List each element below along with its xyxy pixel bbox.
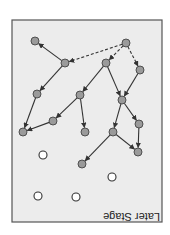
- node-K: [118, 96, 126, 104]
- node-N: [134, 148, 142, 156]
- graph-diagram: Later Stage: [0, 0, 170, 235]
- node-M: [109, 128, 117, 136]
- node-B: [61, 59, 69, 67]
- empty-node-S: [72, 193, 80, 201]
- empty-node-P: [39, 151, 47, 159]
- node-F: [33, 90, 41, 98]
- empty-node-R: [34, 192, 42, 200]
- node-G: [76, 91, 84, 99]
- node-I: [19, 128, 27, 136]
- empty-node-Q: [108, 173, 116, 181]
- node-J: [81, 128, 89, 136]
- diagram-canvas: Later Stage: [0, 0, 170, 235]
- stage-label: Later Stage: [103, 211, 160, 223]
- node-H: [49, 117, 57, 125]
- node-E: [136, 66, 144, 74]
- node-C: [122, 39, 130, 47]
- edge-L-N: [138, 128, 139, 148]
- node-A: [31, 37, 39, 45]
- node-O: [78, 160, 86, 168]
- node-D: [102, 59, 110, 67]
- node-L: [135, 120, 143, 128]
